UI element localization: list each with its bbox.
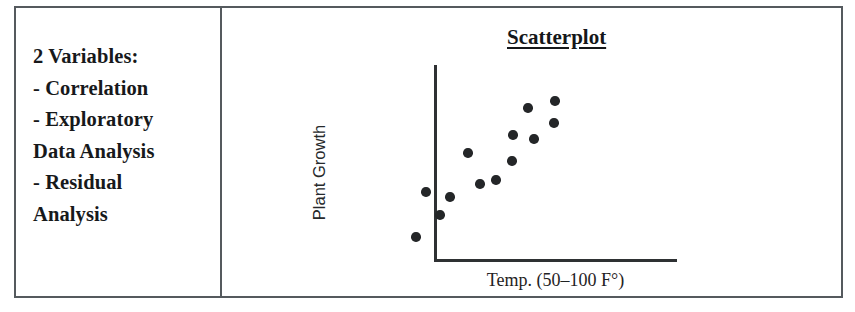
table-cell-figure: Scatterplot Plant Growth Temp. (50–100 F… xyxy=(222,8,841,296)
scatter-point xyxy=(529,134,539,144)
scatter-point xyxy=(550,96,560,106)
topic-list-item: - Residual xyxy=(33,167,213,199)
table-cell-topics: 2 Variables: - Correlation - Exploratory… xyxy=(16,8,220,296)
scatter-point xyxy=(508,130,518,140)
scatter-point xyxy=(507,156,517,166)
topic-list-item: - Exploratory xyxy=(33,104,213,136)
scatter-point xyxy=(411,232,421,242)
scatter-point xyxy=(475,179,485,189)
scatter-point xyxy=(491,175,501,185)
topic-list-item: - Correlation xyxy=(33,73,213,105)
scatter-point xyxy=(421,187,431,197)
scatter-point xyxy=(523,103,533,113)
scatter-point xyxy=(549,118,559,128)
scatterplot: Plant Growth Temp. (50–100 F°) xyxy=(222,8,841,296)
topic-list: 2 Variables: - Correlation - Exploratory… xyxy=(33,41,213,230)
topic-list-item: Data Analysis xyxy=(33,136,213,168)
scatter-point xyxy=(445,192,455,202)
x-axis-line xyxy=(434,259,677,262)
x-axis-label: Temp. (50–100 F°) xyxy=(434,270,677,291)
slide-table: 2 Variables: - Correlation - Exploratory… xyxy=(14,6,843,298)
topic-list-item: Analysis xyxy=(33,199,213,231)
scatter-point xyxy=(435,210,445,220)
y-axis-label: Plant Growth xyxy=(310,53,329,293)
y-axis-line xyxy=(434,65,437,262)
topic-list-item: 2 Variables: xyxy=(33,41,213,73)
scatter-point xyxy=(463,148,473,158)
